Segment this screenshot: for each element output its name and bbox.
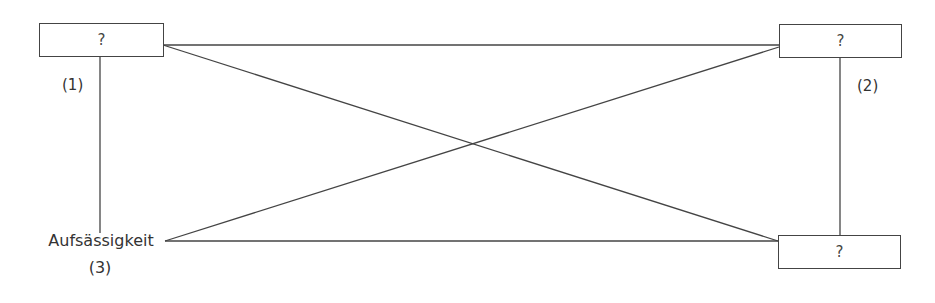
node-top-right: ?	[779, 24, 902, 58]
node-bottom-right: ?	[778, 235, 901, 269]
edge-diagonal-down	[163, 45, 778, 241]
edge-label-left: (1)	[62, 76, 83, 94]
node-bottom-left-number: (3)	[89, 258, 112, 277]
edge-label-right: (2)	[857, 77, 878, 95]
node-bottom-right-label: ?	[836, 243, 844, 261]
node-top-left: ?	[39, 23, 164, 57]
node-bottom-left-label: Aufsässigkeit	[48, 231, 153, 250]
node-top-left-label: ?	[98, 31, 106, 49]
node-top-right-label: ?	[837, 32, 845, 50]
